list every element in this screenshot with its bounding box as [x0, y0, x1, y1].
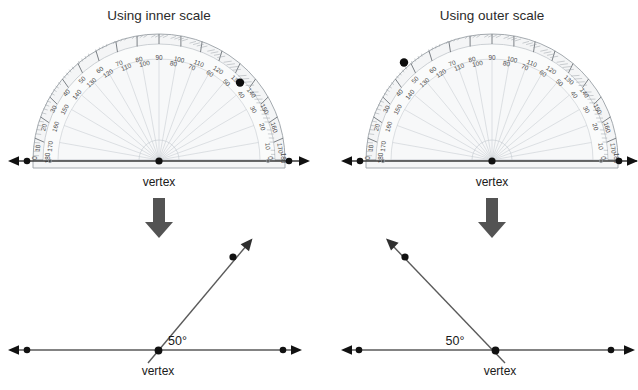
- down-arrow-icon-left: [145, 198, 173, 238]
- angle-vertex-point: [492, 347, 500, 355]
- angle-value-label: 50°: [446, 334, 465, 348]
- svg-text:170: 170: [46, 140, 54, 152]
- protractor-right: 10 20 30 40 50 60 70 80 90 100 110 120 1…: [341, 34, 638, 189]
- angle-vertex-label: vertex: [484, 364, 517, 378]
- svg-text:0: 0: [31, 156, 38, 160]
- protractor-marker-dot: [400, 58, 408, 66]
- angle-point-left: [24, 347, 31, 354]
- panel-right-title: Using outer scale: [440, 8, 544, 23]
- svg-text:10: 10: [367, 144, 375, 152]
- svg-text:180: 180: [377, 152, 384, 163]
- angle-arrow-left-icon: [8, 345, 19, 355]
- baseline-point-left: [24, 158, 31, 165]
- protractor-vertex-point: [488, 157, 495, 164]
- baseline-point-left: [357, 158, 364, 165]
- panel-left-title: Using inner scale: [107, 8, 211, 23]
- protractor-vertex-point: [155, 157, 162, 164]
- baseline-arrow-right-icon: [299, 156, 310, 166]
- panel-left: Using inner scale: [8, 8, 310, 378]
- angle-value-label: 50°: [168, 334, 187, 348]
- baseline-arrow-left-icon: [341, 156, 352, 166]
- svg-text:10: 10: [264, 142, 272, 150]
- svg-text:90: 90: [155, 54, 163, 61]
- protractor-left: 10 20 30 40 50 60 70 80 90 100 110 120 1…: [8, 34, 310, 189]
- angle-vertex-point: [155, 347, 163, 355]
- angle-figure-left: 50° vertex: [8, 239, 302, 379]
- down-arrow-icon-right: [478, 198, 506, 238]
- svg-text:170: 170: [379, 140, 387, 152]
- svg-text:10: 10: [597, 142, 605, 150]
- svg-text:0: 0: [364, 156, 371, 160]
- svg-text:90: 90: [488, 54, 496, 61]
- angle-ray-arrow-icon: [241, 239, 253, 252]
- panel-right: Using outer scale: [341, 8, 638, 378]
- baseline-arrow-left-icon: [8, 156, 19, 166]
- svg-text:180: 180: [44, 152, 51, 163]
- protractor-vertex-label: vertex: [143, 175, 176, 189]
- angle-ray: [148, 245, 247, 363]
- angle-arrow-right-icon: [624, 345, 635, 355]
- angle-arrow-right-icon: [291, 345, 302, 355]
- protractor-marker-dot: [236, 78, 244, 86]
- angle-ray-point: [401, 253, 408, 260]
- angle-figure-right: 50° vertex: [341, 239, 635, 379]
- angle-ray-point: [229, 253, 236, 260]
- baseline-point-right: [616, 158, 623, 165]
- angle-point-left: [356, 347, 363, 354]
- svg-text:180: 180: [280, 153, 287, 164]
- diagram-canvas: Using inner scale: [0, 0, 638, 390]
- baseline-point-right: [286, 158, 293, 165]
- svg-text:10: 10: [34, 144, 42, 152]
- protractor-vertex-label: vertex: [476, 175, 509, 189]
- angle-vertex-label: vertex: [142, 364, 175, 378]
- angle-point-right: [280, 347, 287, 354]
- angle-point-right: [608, 347, 615, 354]
- angle-arrow-left-icon: [341, 345, 352, 355]
- baseline-arrow-right-icon: [627, 156, 638, 166]
- angle-ray-arrow-icon: [386, 239, 399, 251]
